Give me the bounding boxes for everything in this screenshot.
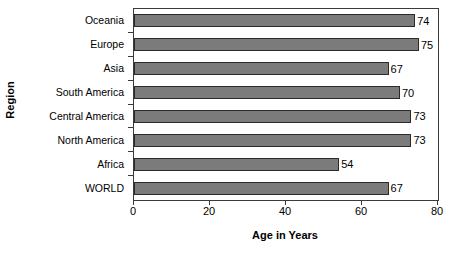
y-axis-category-label: North America [20,128,128,152]
bar-row: 67 [134,176,438,200]
bar-value-label: 67 [391,183,403,194]
bar-row: 75 [134,33,438,57]
y-axis-category-label: Africa [20,152,128,176]
bar: 75 [134,38,419,51]
y-axis-category-label: Oceania [20,8,128,32]
bar-value-label: 73 [413,111,425,122]
bar: 73 [134,110,411,123]
bar: 73 [134,134,411,147]
bar-value-label: 67 [391,63,403,74]
y-axis-category-labels: OceaniaEuropeAsiaSouth AmericaCentral Am… [20,8,128,200]
bar: 54 [134,158,339,171]
x-axis-tick-label: 40 [279,206,291,217]
x-axis-tick-labels: 020406080 [0,206,463,222]
x-axis-tick-label: 0 [130,206,136,217]
bar-row: 70 [134,81,438,105]
x-axis-tick-label: 80 [431,206,443,217]
y-axis-category-label: WORLD [20,176,128,200]
y-axis-category-label: Europe [20,32,128,56]
bar-row: 73 [134,128,438,152]
bar-value-label: 54 [341,159,353,170]
bar-series: 7475677073735467 [134,9,438,200]
x-axis-tick-label: 20 [203,206,215,217]
plot-area: 7475677073735467 [133,8,439,201]
bar-chart-figure: Region OceaniaEuropeAsiaSouth AmericaCen… [0,0,463,256]
bar-row: 73 [134,105,438,129]
bar-value-label: 70 [402,87,414,98]
y-axis-title-label: Region [4,81,16,118]
bar: 70 [134,86,400,99]
bar-value-label: 73 [413,135,425,146]
y-axis-category-label: Central America [20,104,128,128]
bar: 74 [134,14,415,27]
y-axis-category-label: South America [20,80,128,104]
y-axis-category-label: Asia [20,56,128,80]
y-axis-title: Region [0,0,20,200]
bar-row: 74 [134,9,438,33]
bar: 67 [134,182,389,195]
bar-row: 67 [134,57,438,81]
bar: 67 [134,62,389,75]
bar-row: 54 [134,152,438,176]
x-axis-tick-label: 60 [355,206,367,217]
bar-value-label: 75 [421,39,433,50]
x-axis-title: Age in Years [133,229,437,241]
bar-value-label: 74 [417,15,429,26]
